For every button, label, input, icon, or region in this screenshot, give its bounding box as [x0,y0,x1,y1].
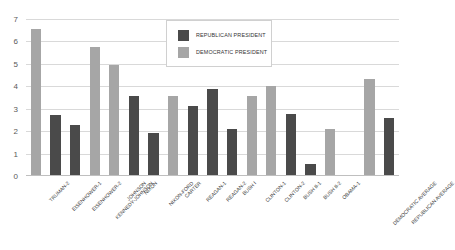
bar-democratic [168,96,178,175]
y-axis-tick-label: 6 [4,37,18,46]
x-axis-tick-label: OBAMA-1 [341,180,361,200]
x-axis-tick-label: REAGAN-1 [204,180,227,203]
bar-republican [50,115,60,175]
bar-democratic [364,79,374,175]
bar-slot [379,19,399,175]
y-axis-tick-label: 3 [4,104,18,113]
y-axis-tick-label: 2 [4,127,18,136]
bar-slot-empty [340,19,360,175]
bar-slot [144,19,164,175]
bar-republican [148,133,158,175]
legend-label-democratic: DEMOCRATIC PRESIDENT [196,49,267,55]
bar-slot [281,19,301,175]
legend-item-democratic: DEMOCRATIC PRESIDENT [178,47,271,58]
bar-republican [207,89,217,175]
bar-republican [70,125,80,175]
bar-slot [320,19,340,175]
x-axis-tick-label: BUSH II-2 [321,180,341,200]
bar-republican [286,114,296,175]
legend-item-republican: REPUBLICAN PRESIDENT [178,30,271,41]
bar-slot [65,19,85,175]
bar-slot [360,19,380,175]
bar-slot [105,19,125,175]
bar-democratic [266,86,276,175]
bar-democratic [31,29,41,175]
legend-label-republican: REPUBLICAN PRESIDENT [196,32,266,38]
bar-republican [129,96,139,175]
chart-legend: REPUBLICAN PRESIDENT DEMOCRATIC PRESIDEN… [166,20,272,67]
x-axis-tick-labels: TRUMAN-2EISENHOWER-1EISENHOWER-2KENNEDY-… [26,178,399,248]
bar-republican [227,129,237,175]
y-axis-tick-label: 5 [4,59,18,68]
bar-republican [384,118,394,175]
y-axis-tick-label: 7 [4,15,18,24]
bar-democratic [90,47,100,175]
y-axis-tick-label: 4 [4,82,18,91]
y-axis-tick-label: 1 [4,149,18,158]
x-axis-tick-label: TRUMAN-2 [48,180,71,203]
legend-swatch-democratic-icon [178,47,189,58]
bar-slot [124,19,144,175]
bar-slot [46,19,66,175]
legend-swatch-republican-icon [178,30,189,41]
bar-slot [301,19,321,175]
bar-democratic [247,96,257,175]
bar-democratic [109,65,119,175]
axis-baseline [26,175,399,176]
bar-slot [85,19,105,175]
bar-republican [305,164,315,175]
y-axis-tick-label: 0 [4,172,18,181]
bar-republican [188,106,198,175]
bar-democratic [325,129,335,175]
bar-slot [26,19,46,175]
